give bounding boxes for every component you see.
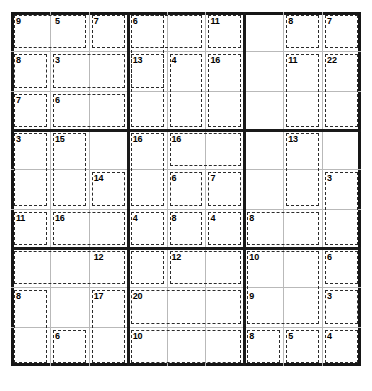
sudoku-cell[interactable] xyxy=(50,91,89,130)
sudoku-cell[interactable] xyxy=(11,248,50,287)
sudoku-cell[interactable] xyxy=(128,209,167,248)
sudoku-cell[interactable] xyxy=(205,130,244,169)
sudoku-cell[interactable] xyxy=(167,51,206,90)
sudoku-cell[interactable] xyxy=(244,51,283,90)
sudoku-cell[interactable] xyxy=(283,248,322,287)
sudoku-cell[interactable] xyxy=(11,51,50,90)
sudoku-cell[interactable] xyxy=(322,209,361,248)
sudoku-cell[interactable] xyxy=(205,287,244,326)
sudoku-cell[interactable] xyxy=(128,287,167,326)
sudoku-cell[interactable] xyxy=(89,51,128,90)
sudoku-cell[interactable] xyxy=(128,130,167,169)
sudoku-cell[interactable] xyxy=(89,169,128,208)
sudoku-cell[interactable] xyxy=(244,169,283,208)
sudoku-cell[interactable] xyxy=(205,51,244,90)
sudoku-cell[interactable] xyxy=(50,12,89,51)
sudoku-cell[interactable] xyxy=(11,91,50,130)
sudoku-cell[interactable] xyxy=(283,130,322,169)
sudoku-cell[interactable] xyxy=(89,12,128,51)
sudoku-board[interactable]: 9578376611134168711223151411161616674841… xyxy=(11,12,361,366)
sudoku-cell[interactable] xyxy=(50,248,89,287)
sudoku-cell[interactable] xyxy=(283,287,322,326)
sudoku-cell[interactable] xyxy=(89,91,128,130)
sudoku-cell[interactable] xyxy=(283,327,322,366)
sudoku-cell[interactable] xyxy=(244,327,283,366)
sudoku-cell[interactable] xyxy=(244,91,283,130)
sudoku-cell[interactable] xyxy=(322,327,361,366)
sudoku-cell[interactable] xyxy=(89,130,128,169)
sudoku-cell[interactable] xyxy=(205,169,244,208)
sudoku-cell[interactable] xyxy=(89,327,128,366)
sudoku-cell[interactable] xyxy=(205,248,244,287)
sudoku-cell[interactable] xyxy=(283,91,322,130)
sudoku-cell[interactable] xyxy=(167,12,206,51)
sudoku-cell[interactable] xyxy=(244,287,283,326)
sudoku-cell[interactable] xyxy=(50,327,89,366)
sudoku-cell[interactable] xyxy=(11,12,50,51)
sudoku-cell[interactable] xyxy=(322,169,361,208)
sudoku-cell[interactable] xyxy=(283,169,322,208)
sudoku-cell[interactable] xyxy=(167,248,206,287)
sudoku-cell[interactable] xyxy=(205,91,244,130)
killer-sudoku-page: 9578376611134168711223151411161616674841… xyxy=(0,0,372,391)
sudoku-cell[interactable] xyxy=(167,130,206,169)
sudoku-cell[interactable] xyxy=(11,287,50,326)
sudoku-cell[interactable] xyxy=(244,130,283,169)
sudoku-cell[interactable] xyxy=(128,12,167,51)
sudoku-cell[interactable] xyxy=(128,51,167,90)
sudoku-cell[interactable] xyxy=(167,327,206,366)
sudoku-cell[interactable] xyxy=(128,91,167,130)
sudoku-cell[interactable] xyxy=(50,130,89,169)
sudoku-cell[interactable] xyxy=(11,130,50,169)
sudoku-cell[interactable] xyxy=(11,209,50,248)
sudoku-cell[interactable] xyxy=(322,12,361,51)
sudoku-cell[interactable] xyxy=(128,327,167,366)
sudoku-cell[interactable] xyxy=(128,248,167,287)
sudoku-cell[interactable] xyxy=(50,287,89,326)
sudoku-cell[interactable] xyxy=(11,327,50,366)
sudoku-cell[interactable] xyxy=(167,287,206,326)
sudoku-cell[interactable] xyxy=(322,287,361,326)
sudoku-cell[interactable] xyxy=(89,209,128,248)
sudoku-cell[interactable] xyxy=(322,51,361,90)
sudoku-cell[interactable] xyxy=(11,169,50,208)
sudoku-cell[interactable] xyxy=(89,287,128,326)
sudoku-cell[interactable] xyxy=(50,51,89,90)
sudoku-cell[interactable] xyxy=(89,248,128,287)
sudoku-cell[interactable] xyxy=(322,248,361,287)
sudoku-cell[interactable] xyxy=(283,51,322,90)
sudoku-cell[interactable] xyxy=(167,91,206,130)
sudoku-cell[interactable] xyxy=(128,169,167,208)
sudoku-cell[interactable] xyxy=(50,169,89,208)
sudoku-cell[interactable] xyxy=(244,209,283,248)
sudoku-cell[interactable] xyxy=(322,130,361,169)
sudoku-cell[interactable] xyxy=(205,209,244,248)
sudoku-cell[interactable] xyxy=(244,12,283,51)
sudoku-cell[interactable] xyxy=(283,12,322,51)
sudoku-cell[interactable] xyxy=(205,12,244,51)
sudoku-cell[interactable] xyxy=(167,169,206,208)
sudoku-cell[interactable] xyxy=(322,91,361,130)
sudoku-cell[interactable] xyxy=(50,209,89,248)
sudoku-cell[interactable] xyxy=(167,209,206,248)
sudoku-cell[interactable] xyxy=(244,248,283,287)
sudoku-cell[interactable] xyxy=(283,209,322,248)
sudoku-cell[interactable] xyxy=(205,327,244,366)
